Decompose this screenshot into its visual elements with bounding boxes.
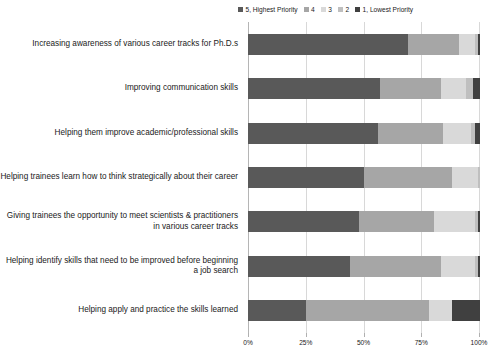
x-tick-label: 25% <box>299 339 312 347</box>
bar-segment <box>408 34 459 55</box>
bar-segment <box>380 78 440 99</box>
bar-segment <box>248 34 408 55</box>
bar-segment <box>248 211 359 232</box>
bar-segment <box>478 211 480 232</box>
category-label: Improving communication skills <box>0 83 238 94</box>
legend-item-4: 4 <box>304 6 315 13</box>
bar-segment <box>452 167 478 188</box>
legend-swatch-icon-4 <box>304 7 309 12</box>
x-tick-mark <box>364 333 365 337</box>
bar-segment <box>452 300 480 321</box>
bar-row <box>248 123 480 144</box>
legend-label-5: 5, Highest Priority <box>246 6 298 13</box>
bar-row <box>248 78 480 99</box>
x-tick-mark <box>479 333 480 337</box>
category-label: Helping trainees learn how to think stra… <box>0 172 238 183</box>
category-label: Helping identify skills that need to be … <box>0 256 238 277</box>
bar-segment <box>248 300 306 321</box>
bar-segment <box>350 256 440 277</box>
bar-segment <box>478 167 480 188</box>
bar-segment <box>248 78 380 99</box>
bar-segment <box>378 123 443 144</box>
x-tick-label: 75% <box>415 339 428 347</box>
legend-label-1: 1, Lowest Priority <box>363 6 414 13</box>
legend-label-3: 3 <box>328 6 332 13</box>
category-label: Giving trainees the opportunity to meet … <box>0 211 238 232</box>
legend-item-1: 1, Lowest Priority <box>355 6 413 13</box>
legend-label-2: 2 <box>345 6 349 13</box>
legend-item-5: 5, Highest Priority <box>238 6 298 13</box>
bar-segment <box>364 167 452 188</box>
bar-segment <box>434 211 476 232</box>
plot-area <box>248 22 480 333</box>
legend-swatch-icon-1 <box>355 7 360 12</box>
bar-segment <box>478 34 480 55</box>
legend-item-3: 3 <box>321 6 332 13</box>
x-tick-mark <box>421 333 422 337</box>
x-tick-label: 100% <box>471 339 488 347</box>
x-tick-mark <box>248 333 249 337</box>
bar-segment <box>466 78 473 99</box>
bar-row <box>248 211 480 232</box>
x-tick-mark <box>306 333 307 337</box>
bar-segment <box>478 256 480 277</box>
x-tick-label: 50% <box>357 339 370 347</box>
legend-swatch-icon-2 <box>338 7 343 12</box>
bar-segment <box>441 78 467 99</box>
category-label: Increasing awareness of various career t… <box>0 39 238 50</box>
category-label: Helping them improve academic/profession… <box>0 128 238 139</box>
x-axis: 0%25%50%75%100% <box>248 333 480 353</box>
bar-segment <box>443 123 471 144</box>
category-label: Helping apply and practice the skills le… <box>0 305 238 316</box>
bar-segment <box>441 256 476 277</box>
stacked-bar-chart: 5, Highest Priority 4 3 2 1, Lowest Prio… <box>0 0 494 358</box>
category-axis-labels: Increasing awareness of various career t… <box>0 22 243 333</box>
bar-segment <box>359 211 433 232</box>
legend-item-2: 2 <box>338 6 349 13</box>
bar-segment <box>473 78 480 99</box>
bar-segment <box>475 123 480 144</box>
bar-segment <box>429 300 452 321</box>
bar-segment <box>248 167 364 188</box>
legend-label-4: 4 <box>311 6 315 13</box>
legend-swatch-icon-3 <box>321 7 326 12</box>
bar-segment <box>248 256 350 277</box>
bar-row <box>248 300 480 321</box>
bar-segment <box>306 300 429 321</box>
legend-swatch-icon-5 <box>238 7 243 12</box>
bar-row <box>248 256 480 277</box>
bar-row <box>248 34 480 55</box>
bar-row <box>248 167 480 188</box>
bar-series-container <box>248 22 480 333</box>
x-tick-label: 0% <box>243 339 253 347</box>
chart-legend: 5, Highest Priority 4 3 2 1, Lowest Prio… <box>238 2 490 16</box>
bar-segment <box>459 34 475 55</box>
bar-segment <box>248 123 378 144</box>
